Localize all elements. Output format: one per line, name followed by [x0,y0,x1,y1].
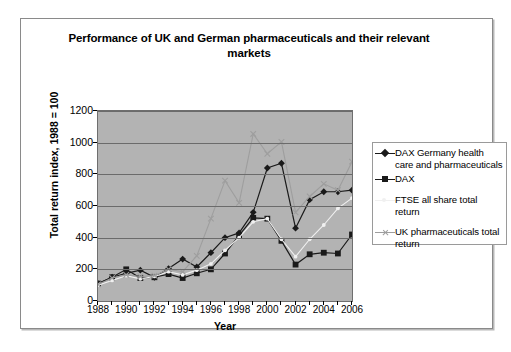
legend-marker-x-icon [375,226,395,238]
y-tick-mark [93,110,97,111]
legend-item[interactable]: DAX [375,173,503,185]
x-tick-label: 1988 [87,304,109,315]
gridline [98,111,352,112]
x-tick-mark [97,301,98,305]
legend-item-label: DAX [395,173,414,185]
x-tick-mark [252,301,253,305]
x-tick-mark [295,301,296,305]
y-tick-mark [93,142,97,143]
legend-marker-dot-icon [375,194,395,206]
x-tick-mark [238,301,239,305]
y-tick-mark [93,205,97,206]
x-tick-mark [125,301,126,305]
chart-legend: DAX Germany health care and pharmaceutic… [372,142,507,245]
legend-marker-diamond-icon [375,147,395,159]
x-tick-mark [309,301,310,305]
y-tick-label: 200 [75,262,93,274]
gridline [98,269,352,270]
legend-item-label: FTSE all share total return [395,194,503,217]
legend-item-label: UK pharmaceuticals total return [395,226,503,249]
chart-title: Performance of UK and German pharmaceuti… [49,31,449,61]
x-tick-mark [139,301,140,305]
x-tick-mark [210,301,211,305]
y-tick-label: 800 [75,167,93,179]
legend-item[interactable]: FTSE all share total return [375,194,503,217]
x-tick-mark [280,301,281,305]
legend-marker-square-icon [375,173,395,185]
x-tick-mark [196,301,197,305]
x-tick-mark [337,301,338,305]
gridline [98,238,352,239]
x-tick-label: 1994 [172,304,194,315]
x-tick-label: 2004 [313,304,335,315]
x-tick-label: 1990 [115,304,137,315]
chart-figure-frame: Performance of UK and German pharmaceuti… [20,18,493,329]
x-axis-title: Year [97,320,353,332]
x-tick-label: 1996 [200,304,222,315]
x-tick-label: 2000 [256,304,278,315]
y-tick-mark [93,237,97,238]
x-tick-label: 2002 [284,304,306,315]
y-tick-label: 400 [75,231,93,243]
y-tick-mark [93,268,97,269]
x-tick-mark [111,301,112,305]
gridline [98,206,352,207]
y-tick-label: 1000 [70,136,93,148]
x-tick-mark [153,301,154,305]
legend-item-label: DAX Germany health care and pharmaceutic… [395,147,503,170]
y-tick-label: 1200 [70,104,93,116]
y-tick-mark [93,173,97,174]
x-tick-mark [224,301,225,305]
x-tick-label: 2006 [341,304,363,315]
x-tick-mark [266,301,267,305]
plot-area [97,110,353,302]
x-axis-tick-labels: 1988199019921994199619982000200220042006 [97,304,353,318]
gridlines [98,111,352,301]
x-tick-mark [182,301,183,305]
x-tick-mark [351,301,352,305]
x-tick-mark [168,301,169,305]
y-tick-label: 600 [75,199,93,211]
y-axis-tick-labels: 020040060080010001200 [57,102,93,308]
legend-item[interactable]: UK pharmaceuticals total return [375,226,503,249]
x-tick-mark [323,301,324,305]
gridline [98,143,352,144]
gridline [98,174,352,175]
x-tick-label: 1992 [143,304,165,315]
x-tick-label: 1998 [228,304,250,315]
legend-item[interactable]: DAX Germany health care and pharmaceutic… [375,147,503,170]
